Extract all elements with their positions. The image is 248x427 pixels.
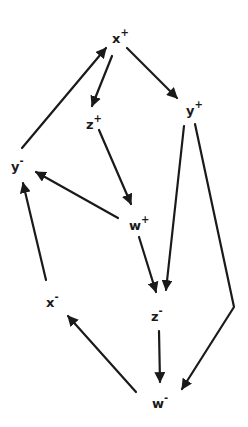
node-sign-label: + — [141, 214, 149, 225]
node-zm: z- — [151, 308, 163, 323]
edge-xp-to-yp — [127, 48, 177, 98]
node-sign-label: - — [164, 392, 168, 403]
node-sign-label: - — [19, 155, 23, 166]
edge-xp-to-zp — [92, 56, 112, 106]
node-xp: x+ — [112, 30, 129, 45]
node-sign-label: + — [120, 27, 128, 38]
edge-yp-to-zm — [166, 126, 184, 290]
node-wp: w+ — [129, 217, 149, 232]
edge-zp-to-wp — [99, 130, 131, 204]
edge-wp-to-zm — [139, 237, 156, 292]
edge-yp-to-wm — [182, 124, 234, 389]
node-yp: y+ — [186, 102, 203, 117]
edge-zm-to-wm — [159, 331, 160, 382]
node-sign-label: - — [54, 291, 58, 302]
edge-xm-to-ym — [23, 183, 46, 280]
node-xm: x- — [46, 294, 59, 309]
edge-wm-to-xm — [68, 316, 136, 392]
node-ym: y- — [11, 158, 24, 173]
edge-ym-to-xp — [22, 48, 106, 148]
node-base-label: w — [152, 396, 164, 411]
node-wm: w- — [152, 395, 168, 410]
node-base-label: z — [151, 309, 159, 324]
graph-edges — [0, 0, 248, 427]
edge-wp-to-ym — [36, 172, 118, 218]
graph-diagram: x+y+z+y-w+x-z-w- — [0, 0, 248, 427]
node-sign-label: - — [159, 305, 163, 316]
node-zp: z+ — [86, 116, 102, 131]
node-base-label: w — [129, 218, 141, 233]
node-base-label: z — [86, 117, 94, 132]
node-sign-label: + — [194, 99, 202, 110]
node-sign-label: + — [94, 113, 102, 124]
